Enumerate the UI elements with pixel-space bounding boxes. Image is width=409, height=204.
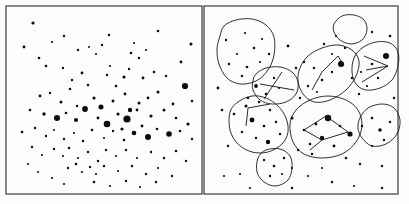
data-point [112, 100, 115, 103]
data-point [180, 61, 183, 64]
data-point [263, 125, 266, 128]
data-point [347, 131, 352, 136]
cluster-center-network [290, 96, 362, 158]
data-point [291, 117, 294, 120]
data-point [63, 183, 65, 185]
data-point [112, 130, 114, 132]
cluster-small-top [333, 15, 367, 44]
data-point [299, 97, 301, 99]
data-point [191, 138, 193, 140]
data-point [225, 39, 227, 41]
data-point [217, 87, 220, 90]
data-point [241, 75, 243, 77]
data-point [171, 175, 173, 177]
data-point [128, 108, 132, 112]
data-point [283, 157, 285, 159]
data-point [115, 155, 117, 157]
cluster-edge [246, 108, 248, 126]
data-point [266, 140, 270, 144]
data-point [360, 71, 362, 73]
data-point [353, 185, 355, 187]
data-point [125, 149, 127, 151]
data-point [166, 131, 172, 137]
data-point [42, 112, 45, 115]
data-point [156, 128, 159, 131]
data-point [123, 139, 126, 142]
cluster-edge [322, 132, 348, 140]
data-point [81, 72, 84, 75]
data-point [182, 83, 188, 89]
data-point [109, 65, 111, 67]
data-point [123, 115, 130, 122]
data-point [245, 105, 248, 108]
data-point [250, 118, 255, 123]
data-point [303, 61, 305, 63]
data-point [109, 185, 111, 187]
data-point [393, 97, 395, 99]
data-point [132, 131, 137, 136]
data-point [258, 101, 260, 103]
data-point [133, 42, 135, 44]
data-point [37, 171, 39, 173]
cluster-edge [312, 72, 322, 90]
data-point [62, 155, 64, 157]
data-point [335, 35, 337, 37]
cluster-edge [260, 84, 294, 90]
data-point [307, 85, 309, 87]
data-point [106, 74, 108, 76]
data-point [120, 127, 123, 130]
data-point [145, 49, 147, 51]
data-point [75, 163, 78, 166]
data-point [172, 103, 175, 106]
cluster-right-lower [358, 104, 400, 146]
data-point [279, 133, 281, 135]
data-point [63, 138, 65, 140]
data-point [145, 134, 151, 140]
cluster-edge [310, 140, 322, 150]
data-point [228, 63, 230, 65]
data-point [39, 95, 42, 98]
data-point [371, 117, 374, 120]
data-point [145, 173, 147, 175]
data-point [82, 106, 88, 112]
data-point [38, 57, 41, 60]
data-point [268, 53, 270, 55]
data-point [259, 61, 261, 63]
data-point [31, 21, 34, 24]
data-point [41, 154, 43, 156]
data-point [241, 131, 243, 133]
data-point [254, 84, 258, 88]
data-point [87, 151, 89, 153]
data-point [105, 149, 107, 151]
data-point [49, 92, 51, 94]
data-point [291, 187, 293, 189]
data-point [65, 112, 68, 115]
data-point [91, 129, 94, 132]
data-point [157, 30, 160, 33]
right-panel [217, 15, 401, 190]
data-point [54, 115, 60, 121]
data-point [186, 122, 189, 125]
data-point [117, 170, 119, 172]
data-point [291, 167, 293, 169]
data-point [157, 167, 159, 169]
data-point [345, 157, 348, 160]
data-point [89, 166, 91, 168]
data-point [236, 53, 238, 55]
data-point [333, 145, 336, 148]
cluster-center-top [298, 45, 359, 102]
data-point [104, 121, 111, 128]
data-point [142, 77, 145, 80]
data-point [321, 79, 324, 82]
data-point [153, 71, 156, 74]
data-point [77, 49, 79, 51]
data-point [150, 151, 152, 153]
data-point [62, 67, 64, 69]
data-point [128, 68, 130, 70]
data-point [273, 77, 275, 79]
data-point [165, 75, 167, 77]
data-point [244, 32, 246, 34]
data-point [175, 117, 178, 120]
cluster-left-crossed [252, 67, 298, 104]
data-point [275, 121, 277, 123]
